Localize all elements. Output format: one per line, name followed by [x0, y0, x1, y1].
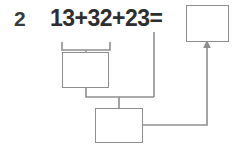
answer-box-step2[interactable]: [95, 108, 143, 143]
connector-step2-to-total: [143, 40, 211, 125]
answer-box-step1[interactable]: [62, 52, 109, 88]
answer-box-total[interactable]: [186, 5, 229, 42]
grouping-bracket-icon: [62, 42, 110, 50]
worksheet-problem: 2 13+32+23=: [0, 0, 241, 150]
connector-step1-to-step2: [86, 88, 154, 97]
